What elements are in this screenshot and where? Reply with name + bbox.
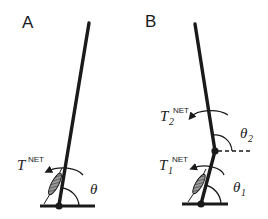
svg-text:1: 1 (241, 187, 246, 198)
angle-label-lower-b: θ 1 (233, 179, 246, 198)
upper-segment-b (195, 24, 215, 151)
svg-text:θ: θ (240, 125, 248, 141)
angle-label-upper-b: θ 2 (240, 125, 253, 144)
pendulum-diagram: A T NET θ B (0, 0, 268, 219)
angle-arc-a (62, 188, 79, 206)
panel-b: B T 2 NET (145, 12, 253, 208)
angle-arc-lower-b (205, 185, 221, 204)
svg-text:NET: NET (173, 106, 189, 115)
torque-label-lower-b: T 1 NET (159, 155, 188, 176)
angle-label-a: θ (90, 181, 98, 197)
svg-text:T: T (17, 157, 27, 173)
svg-text:2: 2 (248, 133, 253, 144)
svg-text:θ: θ (233, 179, 241, 195)
panel-a-label: A (22, 13, 34, 32)
middle-joint-b (211, 147, 218, 154)
torque-label-upper-b: T 2 NET (160, 106, 189, 127)
svg-text:1: 1 (168, 165, 173, 176)
pivot-joint-a (55, 202, 62, 209)
pivot-joint-b (197, 200, 204, 207)
svg-text:2: 2 (169, 116, 174, 127)
torque-label-a: T NET (17, 155, 44, 173)
svg-text:NET: NET (172, 155, 188, 164)
panel-b-label: B (145, 12, 156, 31)
svg-text:NET: NET (28, 155, 44, 164)
panel-a: A T NET θ (17, 13, 98, 210)
pendulum-rod-a (59, 23, 89, 205)
